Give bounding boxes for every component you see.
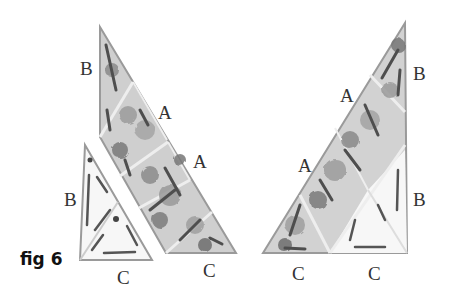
label-right-a-lower: A bbox=[298, 156, 312, 175]
quilt-diagram bbox=[0, 0, 452, 301]
label-left-c-small: C bbox=[117, 268, 130, 287]
label-left-a-upper: A bbox=[158, 103, 172, 122]
label-right-c-left: C bbox=[292, 264, 305, 283]
figure-canvas: B A A B C C B A A B C C fig 6 bbox=[0, 0, 452, 301]
label-left-b-lower: B bbox=[64, 190, 77, 209]
label-left-c-strip: C bbox=[203, 261, 216, 280]
label-right-c-right: C bbox=[368, 264, 381, 283]
label-right-b-lower: B bbox=[413, 190, 426, 209]
label-left-a-lower: A bbox=[193, 152, 207, 171]
figure-caption: fig 6 bbox=[20, 251, 63, 268]
label-right-b-top: B bbox=[413, 64, 426, 83]
label-left-b-top: B bbox=[80, 59, 93, 78]
label-right-a-upper: A bbox=[340, 86, 354, 105]
right-triangle bbox=[263, 23, 407, 253]
